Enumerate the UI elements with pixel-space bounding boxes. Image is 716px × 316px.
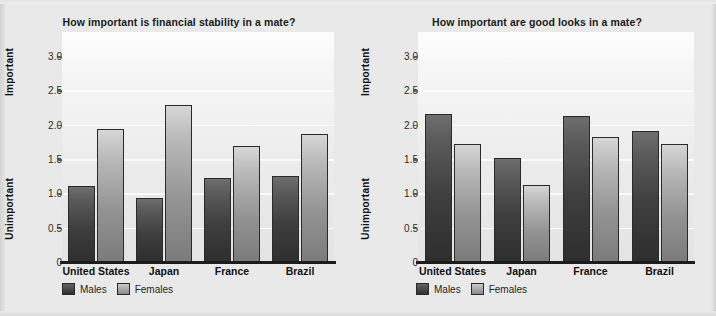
bar-males-brazil [632,131,659,262]
bar-females-japan [165,105,192,262]
y-axis-tick-mark [413,193,418,195]
legend: Males Females [416,283,527,295]
y-axis-tick-mark [413,90,418,92]
bar-females-united-states [97,129,124,262]
bar-males-france [563,116,590,262]
y-axis-tick-mark [413,228,418,230]
legend-swatch-females-icon [471,283,484,295]
bar-females-france [592,137,619,262]
x-axis-label-japan: Japan [506,265,536,277]
plot-area [418,32,694,262]
plot-area [62,32,334,262]
chart-screenshot: How important is financial stability in … [0,0,716,316]
x-axis-line [60,261,336,264]
y-axis-label-unimportant: Unimportant [4,178,15,240]
gridline [418,125,694,127]
x-axis-label-france: France [215,265,249,277]
y-axis-tick-mark [57,56,62,58]
y-axis: 00.51.01.52.02.53.0 [374,0,418,316]
y-axis-tick-mark [57,125,62,127]
legend-item-females: Females [117,283,173,295]
legend-label-females: Females [135,284,173,295]
legend-swatch-males-icon [62,283,75,295]
bar-males-united-states [68,186,95,262]
legend-swatch-males-icon [416,283,429,295]
y-axis-tick-mark [57,228,62,230]
gridline [62,56,334,58]
y-axis-tick-mark [57,90,62,92]
y-axis-tick-mark [413,159,418,161]
y-axis-label-important: Important [4,48,15,96]
y-axis-label-important: Important [360,48,371,96]
x-axis-line [416,261,695,264]
bar-males-japan [494,158,521,262]
legend: Males Females [62,283,173,295]
legend-swatch-females-icon [117,283,130,295]
bar-males-brazil [272,176,299,262]
y-axis-tick-mark [413,125,418,127]
bar-males-japan [136,198,163,262]
x-axis-label-france: France [573,265,607,277]
bar-females-france [233,146,260,262]
chart-panel-good-looks: How important are good looks in a mate? … [358,0,716,316]
x-axis-label-brazil: Brazil [286,265,315,277]
legend-label-females: Females [489,284,527,295]
y-axis-label-unimportant: Unimportant [360,178,371,240]
x-axis-label-united-states: United States [419,265,486,277]
legend-label-males: Males [434,284,461,295]
gridline [62,125,334,127]
x-axis-label-united-states: United States [62,265,129,277]
chart-panel-financial-stability: How important is financial stability in … [0,0,358,316]
bar-females-united-states [454,144,481,262]
legend-item-males: Males [62,283,107,295]
gridline [62,90,334,92]
gridline [418,90,694,92]
y-axis-tick-label: 0 [26,257,62,268]
y-axis-tick-mark [57,193,62,195]
x-axis-label-japan: Japan [149,265,179,277]
bar-males-france [204,178,231,262]
y-axis-tick-mark [57,159,62,161]
x-axis-label-brazil: Brazil [645,265,674,277]
bar-females-brazil [301,134,328,262]
bar-males-united-states [425,114,452,262]
legend-item-females: Females [471,283,527,295]
y-axis: 00.51.01.52.02.53.0 [18,0,62,316]
legend-label-males: Males [80,284,107,295]
bar-females-japan [523,185,550,262]
bar-females-brazil [661,144,688,262]
gridline [418,56,694,58]
y-axis-tick-label: 0 [382,257,418,268]
legend-item-males: Males [416,283,461,295]
y-axis-tick-mark [413,56,418,58]
